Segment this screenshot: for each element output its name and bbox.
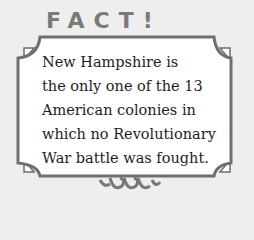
fact-line: New Hampshire is <box>42 50 232 74</box>
ornament-icon <box>100 178 160 188</box>
fact-line: War battle was fought. <box>42 146 232 170</box>
fact-line: which no Revolutionary <box>42 122 232 146</box>
fact-body: New Hampshire is the only one of the 13 … <box>42 50 232 170</box>
fact-line: American colonies in <box>42 98 232 122</box>
fact-line: the only one of the 13 <box>42 74 232 98</box>
